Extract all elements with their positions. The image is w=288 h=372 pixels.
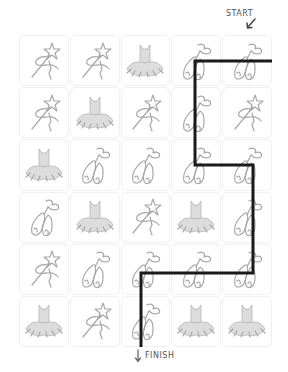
ballet-shoes-icon	[225, 247, 269, 291]
maze-cell-ballet-shoes[interactable]	[222, 192, 272, 243]
maze-cell-wand[interactable]	[121, 87, 171, 138]
ballet-shoes-icon	[73, 143, 117, 187]
maze-cell-ballet-shoes[interactable]	[121, 139, 171, 190]
tutu-icon	[73, 195, 117, 239]
maze-cell-ballet-shoes[interactable]	[171, 35, 221, 86]
magic-wand-icon	[22, 39, 66, 83]
finish-label: FINISH	[145, 351, 174, 360]
tutu-icon	[174, 195, 218, 239]
tutu-icon	[123, 39, 167, 83]
maze-cell-tutu[interactable]	[19, 139, 69, 190]
maze-cell-ballet-shoes[interactable]	[70, 139, 120, 190]
maze-cell-wand[interactable]	[19, 244, 69, 295]
ballet-shoes-icon	[225, 143, 269, 187]
ballet-shoes-icon	[123, 143, 167, 187]
ballet-shoes-icon	[123, 247, 167, 291]
finish-arrow-icon	[134, 349, 142, 363]
ballet-shoes-icon	[123, 299, 167, 343]
maze-cell-wand[interactable]	[70, 296, 120, 347]
maze-cell-ballet-shoes[interactable]	[222, 35, 272, 86]
magic-wand-icon	[123, 91, 167, 135]
ballet-shoes-icon	[22, 195, 66, 239]
magic-wand-icon	[73, 39, 117, 83]
maze-cell-wand[interactable]	[70, 35, 120, 86]
tutu-icon	[22, 299, 66, 343]
maze-cell-tutu[interactable]	[70, 192, 120, 243]
ballet-shoes-icon	[225, 195, 269, 239]
maze-cell-wand[interactable]	[19, 87, 69, 138]
maze-cell-wand[interactable]	[19, 35, 69, 86]
ballet-shoes-icon	[174, 143, 218, 187]
maze-cell-tutu[interactable]	[171, 296, 221, 347]
maze-cell-ballet-shoes[interactable]	[222, 139, 272, 190]
tutu-icon	[174, 299, 218, 343]
maze-cell-tutu[interactable]	[222, 296, 272, 347]
tutu-icon	[73, 91, 117, 135]
maze-cell-tutu[interactable]	[171, 192, 221, 243]
ballet-shoes-icon	[174, 91, 218, 135]
maze-grid	[19, 35, 272, 347]
magic-wand-icon	[225, 91, 269, 135]
maze-cell-ballet-shoes[interactable]	[121, 244, 171, 295]
maze-cell-ballet-shoes[interactable]	[171, 87, 221, 138]
magic-wand-icon	[22, 91, 66, 135]
maze-cell-tutu[interactable]	[121, 35, 171, 86]
maze-cell-wand[interactable]	[222, 87, 272, 138]
magic-wand-icon	[73, 299, 117, 343]
maze-cell-wand[interactable]	[121, 192, 171, 243]
maze-cell-ballet-shoes[interactable]	[171, 139, 221, 190]
ballet-shoes-icon	[225, 39, 269, 83]
tutu-icon	[22, 143, 66, 187]
tutu-icon	[225, 299, 269, 343]
ballet-shoes-icon	[174, 39, 218, 83]
maze-cell-ballet-shoes[interactable]	[70, 244, 120, 295]
ballet-shoes-icon	[73, 247, 117, 291]
maze-cell-tutu[interactable]	[70, 87, 120, 138]
ballet-shoes-icon	[174, 247, 218, 291]
magic-wand-icon	[123, 195, 167, 239]
maze-cell-ballet-shoes[interactable]	[121, 296, 171, 347]
maze-cell-ballet-shoes[interactable]	[19, 192, 69, 243]
maze-cell-ballet-shoes[interactable]	[171, 244, 221, 295]
maze-cell-tutu[interactable]	[19, 296, 69, 347]
start-arrow-icon	[244, 17, 258, 31]
magic-wand-icon	[22, 247, 66, 291]
maze-cell-ballet-shoes[interactable]	[222, 244, 272, 295]
